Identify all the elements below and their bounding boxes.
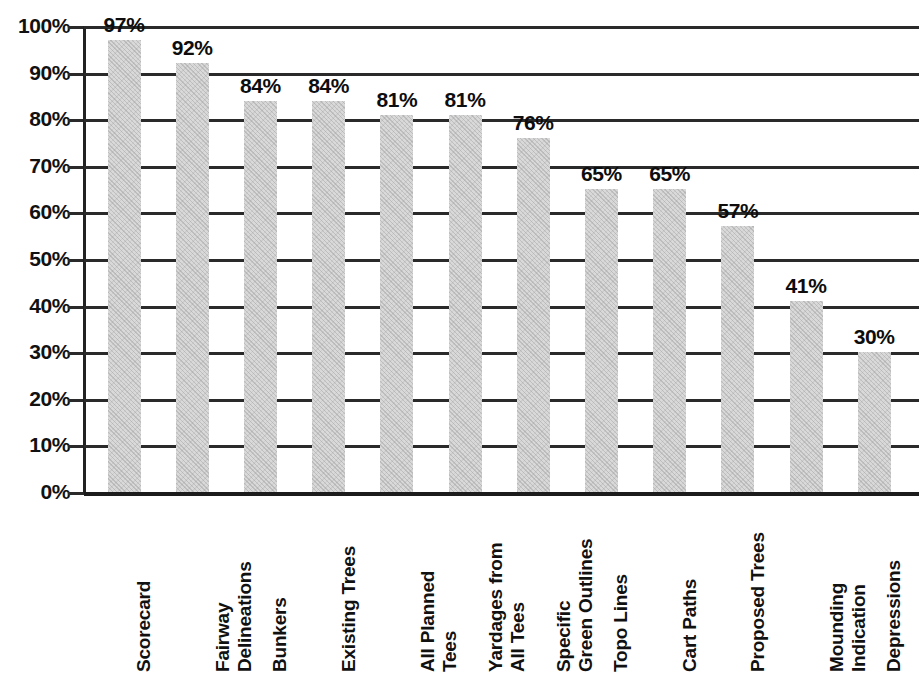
x-axis-category-label: Yardages fromAll Tees (485, 543, 530, 672)
y-axis-tick-label: 70% (4, 154, 70, 178)
y-axis-tick-label: 40% (4, 294, 70, 318)
bar (653, 189, 686, 492)
x-axis-category-label: Proposed Trees (747, 532, 769, 672)
x-axis-category-label-line: Depressions (883, 560, 904, 672)
x-axis-category-label-line: Mounding (826, 583, 848, 672)
x-axis-category-label: FairwayDelineations (212, 561, 257, 672)
x-axis-category-label-line: Cart Paths (679, 579, 700, 672)
bar (380, 115, 413, 492)
bar (244, 101, 277, 492)
gridline (84, 119, 919, 122)
bar-value-label: 76% (513, 111, 554, 135)
x-axis-category-label-line: Bunkers (269, 597, 290, 672)
gridline (84, 73, 919, 76)
bar-value-label: 81% (376, 88, 417, 112)
y-axis-tick-label: 80% (4, 107, 70, 131)
x-axis-category-label-line: Topo Lines (610, 574, 631, 672)
bar (721, 226, 754, 492)
x-axis-category-label-line: Tees (439, 571, 461, 672)
gridline (84, 259, 919, 262)
axis-baseline (84, 492, 919, 496)
x-axis-category-label-line: Yardages from (485, 543, 507, 672)
x-axis-category-label: Bunkers (269, 597, 291, 672)
bar (108, 40, 141, 492)
bar (312, 101, 345, 492)
bar (790, 301, 823, 492)
x-axis-category-label: All PlannedTees (417, 571, 462, 672)
bar (449, 115, 482, 492)
x-axis-category-label: Depressions (883, 560, 905, 672)
bar-value-label: 81% (445, 88, 486, 112)
x-axis-category-label-line: All Tees (507, 543, 529, 672)
y-axis-tick-label: 20% (4, 387, 70, 411)
y-axis-tick-label: 90% (4, 61, 70, 85)
bar (176, 63, 209, 492)
x-axis-category-labels: ScorecardFairwayDelineationsBunkersExist… (0, 500, 919, 681)
y-axis-tick-label: 50% (4, 247, 70, 271)
y-axis-tick-label: 10% (4, 433, 70, 457)
y-axis-tick-label: 30% (4, 340, 70, 364)
x-axis-category-label-line: Indication (848, 583, 870, 672)
x-axis-category-label-line: Delineations (235, 561, 257, 672)
x-axis-category-label-line: All Planned (417, 571, 439, 672)
gridline (84, 26, 919, 29)
bar-value-label: 97% (104, 13, 145, 37)
bar-value-label: 84% (240, 74, 281, 98)
y-axis-tick-label: 100% (4, 14, 70, 38)
x-axis-category-label: Cart Paths (679, 579, 701, 672)
bar (517, 138, 550, 492)
y-axis-tick-label: 60% (4, 200, 70, 224)
x-axis-category-label-line: Existing Trees (338, 546, 359, 672)
bar-value-label: 57% (717, 199, 758, 223)
plot-area (84, 26, 919, 492)
x-axis-category-label-line: Proposed Trees (747, 532, 768, 672)
x-axis-category-label-line: Fairway (212, 561, 234, 672)
gridline (84, 212, 919, 215)
x-axis-category-label: MoundingIndication (826, 583, 871, 672)
x-axis-category-label: Existing Trees (338, 546, 360, 672)
bar-chart: 0%10%20%30%40%50%60%70%80%90%100% 97%92%… (0, 0, 919, 681)
x-axis-category-label: SpecificGreen Outlines (553, 539, 598, 672)
bar-value-label: 65% (581, 162, 622, 186)
bar (585, 189, 618, 492)
x-axis-category-label-line: Specific (553, 539, 575, 672)
x-axis-category-label: Topo Lines (610, 574, 632, 672)
bar-value-label: 92% (172, 36, 213, 60)
gridline (84, 166, 919, 169)
x-axis-category-label-line: Green Outlines (576, 539, 598, 672)
bar-value-label: 30% (854, 325, 895, 349)
bar (858, 352, 891, 492)
bar-value-label: 41% (786, 274, 827, 298)
x-axis-category-label: Scorecard (133, 581, 155, 672)
x-axis-category-label-line: Scorecard (133, 581, 154, 672)
bar-value-label: 84% (308, 74, 349, 98)
bar-value-label: 65% (649, 162, 690, 186)
